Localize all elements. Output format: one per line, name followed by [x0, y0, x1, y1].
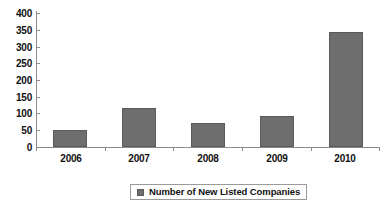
y-axis-label-300: 300: [0, 43, 32, 53]
x-axis-label-2007: 2007: [109, 154, 169, 164]
y-axis-label-0: 0: [0, 143, 32, 153]
bar-2007: [122, 108, 156, 147]
bars-layer: [36, 13, 380, 147]
y-axis-label-200: 200: [0, 76, 32, 86]
y-axis-label-150: 150: [0, 93, 32, 103]
x-axis-tick-5: [379, 147, 380, 151]
x-axis-label-2009: 2009: [247, 154, 307, 164]
x-axis-tick-2: [173, 147, 174, 151]
y-axis-label-400: 400: [0, 9, 32, 19]
bar-2008: [191, 123, 225, 147]
legend-swatch-icon: [137, 189, 144, 196]
legend-label-series-1: Number of New Listed Companies: [149, 187, 300, 197]
x-axis-line: [36, 147, 380, 148]
y-axis-label-250: 250: [0, 59, 32, 69]
y-axis-label-50: 50: [0, 126, 32, 136]
chart-legend: Number of New Listed Companies: [130, 184, 307, 200]
bar-2010: [329, 32, 363, 147]
x-axis-tick-3: [242, 147, 243, 151]
y-axis-label-100: 100: [0, 109, 32, 119]
x-axis-tick-1: [105, 147, 106, 151]
bar-chart: 400 350 300 250 200 150 100 50 0: [0, 0, 389, 217]
x-axis-tick-4: [311, 147, 312, 151]
x-axis-tick-0: [36, 147, 37, 151]
bar-2006: [53, 130, 87, 147]
x-axis-label-2008: 2008: [178, 154, 238, 164]
x-axis-label-2006: 2006: [41, 154, 101, 164]
bar-2009: [260, 116, 294, 147]
y-axis-label-350: 350: [0, 26, 32, 36]
x-axis-label-2010: 2010: [315, 154, 375, 164]
